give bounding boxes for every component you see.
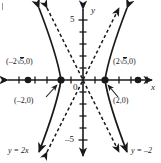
hyperbola-graph-figure: y x 5 –5 0 (–2√5,0) (2√5,0) (–2,0) (2,0)… bbox=[0, 0, 161, 163]
point-left-vertex bbox=[57, 76, 64, 83]
asymptote-label-left: y = 2x bbox=[8, 147, 29, 155]
right-focus-label-suffix: ,0) bbox=[127, 57, 136, 66]
left-focus-label: (–2√5,0) bbox=[6, 57, 33, 66]
point-right-vertex bbox=[101, 76, 108, 83]
y-axis-label: y bbox=[91, 6, 95, 15]
right-focus-radical: √5 bbox=[120, 57, 127, 66]
left-vertex-label: (–2,0) bbox=[14, 97, 33, 105]
coordinate-plane-plot bbox=[0, 0, 161, 163]
right-vertex-label: (2,0) bbox=[113, 97, 128, 105]
right-focus-label-prefix: (2 bbox=[113, 57, 120, 66]
leader-line-left-vertex bbox=[46, 85, 57, 97]
y-tick-label-5: 5 bbox=[70, 15, 75, 24]
y-axis bbox=[79, 9, 88, 156]
left-focus-radical: √5 bbox=[17, 57, 24, 66]
left-focus-label-prefix: (–2 bbox=[6, 57, 17, 66]
origin-label: 0 bbox=[73, 83, 78, 92]
point-right-focus bbox=[135, 77, 142, 84]
point-left-focus bbox=[25, 77, 32, 84]
left-focus-label-suffix: ,0) bbox=[24, 57, 33, 66]
asymptote-label-right: y = –2 bbox=[131, 147, 152, 155]
y-tick-label-neg5: –5 bbox=[65, 135, 74, 144]
right-focus-label: (2√5,0) bbox=[113, 57, 136, 66]
x-axis-label: x bbox=[151, 83, 155, 92]
